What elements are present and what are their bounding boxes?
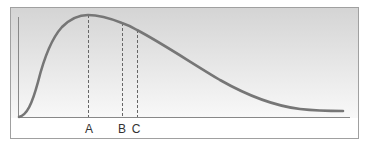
label-band: [11, 118, 358, 138]
label-b: B: [118, 122, 126, 136]
label-c: C: [132, 122, 141, 136]
distribution-chart: A B C: [0, 0, 371, 144]
label-a: A: [85, 122, 93, 136]
